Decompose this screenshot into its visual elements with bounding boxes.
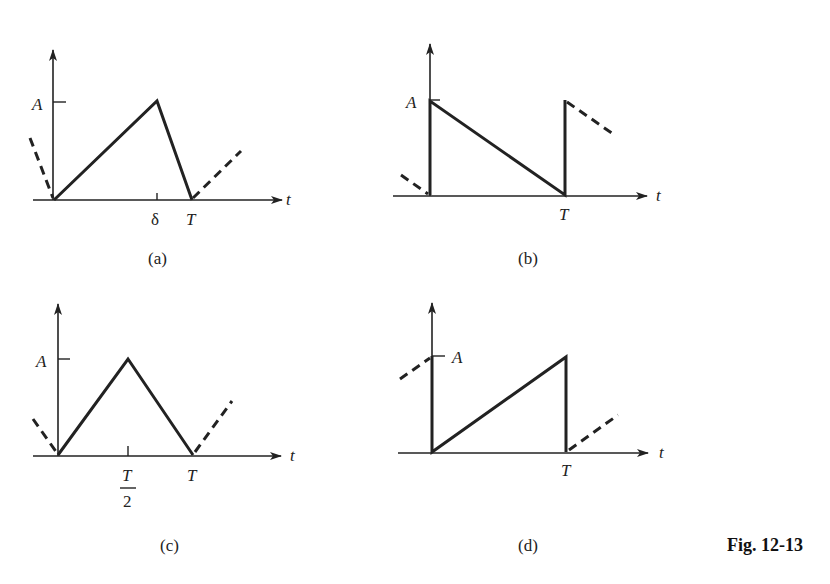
waveform-next-period	[569, 415, 618, 450]
x-tick-label-T: T	[186, 210, 197, 229]
amplitude-label: A	[31, 95, 43, 114]
panel-caption: (b)	[518, 249, 538, 268]
figure-canvas: A t δ T (a) A t T (b) A t T 2 T (c)	[0, 0, 830, 584]
waveform-main	[54, 101, 192, 200]
x-tick-label-T: T	[559, 205, 570, 224]
x-axis-label: t	[656, 186, 662, 205]
waveform-prev-period	[400, 358, 430, 379]
amplitude-label: A	[405, 93, 417, 112]
waveform-next-period	[195, 401, 232, 452]
panel-c: A t T 2 T (c)	[33, 304, 296, 555]
waveform-next-period	[567, 102, 616, 136]
waveform-main	[430, 100, 565, 195]
panel-a: A t δ T (a)	[30, 50, 292, 268]
panel-b: A t T (b)	[393, 44, 662, 268]
x-tick-label-half-T-denominator: 2	[123, 492, 132, 511]
panel-caption: (c)	[160, 536, 179, 555]
waveform-prev-period	[401, 175, 428, 194]
amplitude-label: A	[35, 352, 47, 371]
waveform-main	[58, 359, 193, 455]
x-tick-label-half-T-numerator: T	[122, 466, 133, 485]
x-tick-label-delta: δ	[151, 210, 159, 229]
waveform-main	[432, 356, 566, 452]
figure-label: Fig. 12-13	[727, 535, 803, 555]
amplitude-label: A	[451, 348, 463, 367]
panel-caption: (d)	[518, 536, 538, 555]
x-axis-label: t	[290, 446, 296, 465]
x-axis-label: t	[286, 190, 292, 209]
x-tick-label-T: T	[187, 466, 198, 485]
waveform-prev-period	[30, 138, 53, 198]
panel-caption: (a)	[148, 249, 167, 268]
waveform-next-period	[193, 151, 241, 198]
waveform-prev-period	[33, 419, 57, 453]
x-axis-label: t	[659, 443, 665, 462]
x-tick-label-T: T	[561, 461, 572, 480]
panel-d: A t T (d)	[398, 303, 665, 555]
